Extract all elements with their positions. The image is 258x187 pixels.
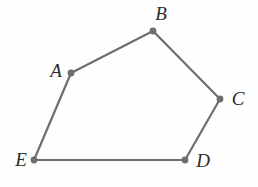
polygon-edge-bc xyxy=(153,31,220,99)
polygon-edge-group xyxy=(34,31,220,160)
polygon-edge-ab xyxy=(71,31,153,73)
vertex-label-e: E xyxy=(15,150,27,169)
vertex-point-b xyxy=(150,28,157,35)
pentagon-diagram xyxy=(0,0,258,187)
vertex-point-c xyxy=(217,96,224,103)
polygon-edge-ea xyxy=(34,73,71,160)
geometry-figure-canvas: ABCDE xyxy=(0,0,258,187)
vertex-point-a xyxy=(68,70,75,77)
vertex-point-e xyxy=(31,157,38,164)
vertex-label-c: C xyxy=(232,89,245,108)
vertex-label-a: A xyxy=(50,61,62,80)
vertex-point-d xyxy=(182,157,189,164)
vertex-label-d: D xyxy=(196,151,210,170)
vertex-label-b: B xyxy=(155,4,167,23)
